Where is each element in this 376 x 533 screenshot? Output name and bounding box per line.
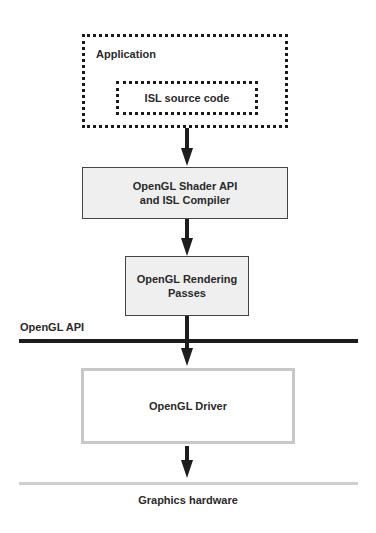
arrow-shader-to-rendering xyxy=(181,219,193,256)
arrow-driver-to-hardware xyxy=(181,446,193,478)
arrow-rendering-to-driver xyxy=(181,316,193,366)
arrows-layer xyxy=(0,0,376,533)
arrow-app-to-shader xyxy=(181,128,193,166)
